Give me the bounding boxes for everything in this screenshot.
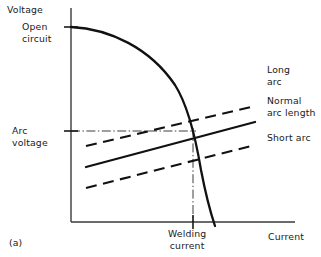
x-axis-label: Current <box>268 231 304 243</box>
welding-va-characteristic-figure: Voltage Open circuit Arc voltage Long ar… <box>0 0 321 257</box>
short-arc-curve <box>86 145 255 188</box>
curve-label-normal-arc-length: Normal arc length <box>267 95 316 118</box>
curve-label-short-arc: Short arc <box>267 132 311 144</box>
curve-label-long-arc: Long arc <box>267 64 290 87</box>
normal-arc-length-curve <box>86 122 255 167</box>
figure-caption: (a) <box>9 237 22 249</box>
y-tick-label-arc-voltage: Arc voltage <box>12 125 48 148</box>
x-tick-label-welding-current: Welding current <box>168 228 206 251</box>
y-axis-label: Voltage <box>7 4 43 16</box>
long-arc-curve <box>86 106 255 146</box>
y-tick-label-open-circuit: Open circuit <box>22 21 52 44</box>
